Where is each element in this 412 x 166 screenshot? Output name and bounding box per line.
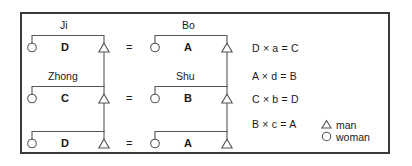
figure-root: Ji D = Bo A Zhong C = Shu B D = A D × a … (0, 0, 412, 166)
row1-left-name: Ji (60, 20, 68, 31)
row1-equals-sign: = (126, 42, 132, 53)
row3-left-relation: D (61, 138, 69, 149)
row2-right-name: Shu (176, 71, 195, 82)
row1-right-name: Bo (182, 20, 195, 31)
equation-4: B × c = A (252, 118, 296, 130)
legend-label-woman: woman (336, 131, 370, 143)
equation-2: A × d = B (252, 70, 297, 82)
equation-1: D × a = C (252, 42, 299, 54)
row3-equals-sign: = (126, 138, 132, 149)
row3-right-relation: A (184, 138, 192, 149)
row2-left-relation: C (61, 93, 69, 104)
row2-left-name: Zhong (48, 71, 78, 82)
row1-right-relation: A (184, 42, 192, 53)
row2-equals-sign: = (126, 93, 132, 104)
figure-frame (20, 12, 390, 154)
row2-right-relation: B (184, 93, 192, 104)
legend-label-man: man (336, 119, 356, 131)
row1-left-relation: D (61, 42, 69, 53)
equation-3: C × b = D (252, 93, 299, 105)
